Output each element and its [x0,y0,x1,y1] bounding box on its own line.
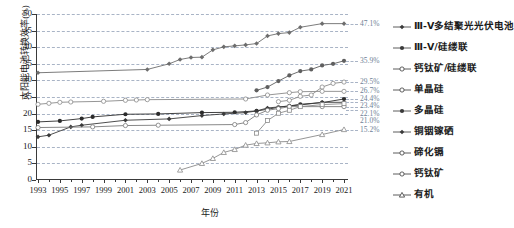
y-tick-label: 50 [12,9,32,18]
x-tick-mark [311,180,312,182]
x-tick-label: 2011 [226,186,243,195]
data-point [167,62,172,67]
data-point [287,98,291,102]
data-point [145,67,150,72]
x-tick-mark [202,180,203,182]
data-point [287,73,291,77]
filled-circle-icon [392,103,414,115]
data-point [276,79,280,83]
leader-line [346,130,358,131]
data-point [123,98,127,102]
data-point [244,120,248,124]
data-point [134,98,138,102]
open-circle-icon [392,145,414,157]
data-point [309,67,313,71]
data-point [298,105,302,109]
series-layer [36,14,348,180]
series-8 [177,127,346,172]
legend-item-5[interactable]: 铜铟镓硒 [392,119,511,140]
open-circle-icon [392,61,414,73]
legend-item-6[interactable]: 碲化镉 [392,140,511,161]
data-point [58,119,62,123]
data-point [276,111,280,115]
data-point [91,115,95,119]
x-tick-mark [180,180,181,182]
series-line [180,130,344,170]
data-point [309,93,313,97]
y-tick-label: 30 [12,75,32,84]
chart-legend: Ⅲ-Ⅴ多结聚光光伏电池Ⅲ-Ⅴ/硅缕联钙钛矿/硅缕联单晶硅多晶硅铜铟镓硒碲化镉钙钛… [392,14,511,203]
data-point [287,30,292,35]
legend-label: 有机 [414,186,434,200]
legend-label: 多晶硅 [414,102,444,116]
data-point [243,110,248,115]
data-point [331,81,335,85]
series-line [38,24,344,73]
data-point [210,156,215,161]
y-tick-mark [32,180,36,181]
data-point [36,102,40,106]
x-tick-mark [278,180,279,183]
x-tick-mark [300,180,301,183]
y-tick-label: 35 [12,59,32,68]
legend-item-7[interactable]: 钙钛矿 [392,161,511,182]
y-tick-label: 45 [12,26,32,35]
y-tick-label: 40 [12,42,32,51]
leader-line [346,24,358,25]
x-tick-mark [322,180,323,183]
x-tick-label: 1993 [30,186,47,195]
data-point [298,94,302,98]
y-tick-label: 25 [12,92,32,101]
data-point [298,25,303,30]
legend-item-3[interactable]: 单晶硅 [392,77,511,98]
x-tick-mark [136,180,137,182]
x-tick-mark [82,180,83,183]
data-point [266,119,270,123]
legend-item-1[interactable]: Ⅲ-Ⅴ/硅缕联 [392,35,511,56]
data-point [254,113,258,117]
legend-item-0[interactable]: Ⅲ-Ⅴ多结聚光光伏电池 [392,14,511,35]
data-point [233,122,237,126]
legend-item-4[interactable]: 多晶硅 [392,98,511,119]
leader-line [346,82,358,83]
x-tick-mark [333,180,334,182]
series-1 [254,59,346,93]
series-line [38,91,344,104]
data-point [36,120,40,124]
data-point [265,85,269,89]
y-tick-label: 5 [12,158,32,167]
data-point [58,100,62,104]
data-point [331,62,335,66]
filled-diamond-icon [392,19,414,31]
data-point [320,85,324,89]
legend-item-2[interactable]: 钙钛矿/硅缕联 [392,56,511,77]
data-point [178,57,183,62]
data-point [320,103,324,107]
x-tick-mark [60,180,61,183]
open-circle-icon [392,82,414,94]
data-point [276,31,281,36]
data-point [255,131,259,135]
x-tick-mark [104,180,105,183]
x-tick-label: 2003 [139,186,156,195]
legend-label: 钙钛矿 [414,165,444,179]
x-tick-label: 2009 [204,186,221,195]
data-point [47,101,51,105]
y-tick-label: 10 [12,142,32,151]
x-tick-mark [257,180,258,183]
data-point [232,44,237,49]
x-tick-mark [158,180,159,182]
data-point [320,21,325,26]
x-tick-mark [268,180,269,182]
x-tick-label: 2021 [336,186,353,195]
x-tick-label: 2005 [161,186,178,195]
data-point [123,112,127,116]
x-tick-mark [147,180,148,183]
x-tick-label: 1997 [73,186,90,195]
data-point [320,63,324,67]
legend-label: Ⅲ-Ⅴ/硅缕联 [414,39,468,53]
data-point [69,100,73,104]
legend-item-8[interactable]: 有机 [392,182,511,203]
x-tick-mark [213,180,214,183]
data-point [276,100,280,104]
